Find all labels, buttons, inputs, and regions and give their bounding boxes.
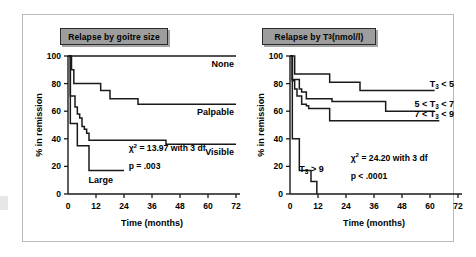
curve-label-t3-lt5: T3 < 5 (430, 79, 454, 90)
chart-goitre-size: 0204060801000122436486072Time (months)% … (22, 14, 250, 242)
y-tick-label: 80 (274, 79, 284, 89)
stat-p-value: p = .003 (129, 161, 161, 171)
curve-5-t3-7 (290, 56, 435, 111)
x-axis-title: Time (months) (121, 218, 183, 228)
x-tick-label: 60 (425, 201, 435, 211)
x-tick-label: 0 (288, 201, 293, 211)
x-tick-label: 36 (147, 201, 157, 211)
curve-large (68, 56, 124, 171)
x-tick-label: 24 (119, 201, 129, 211)
curve-label-palpable: Palpable (197, 107, 234, 117)
curve-label-7-t3-9: 7 < T3 < 9 (414, 109, 454, 120)
y-tick-label: 0 (56, 189, 61, 199)
x-tick-label: 24 (341, 201, 351, 211)
edge-artifact (0, 196, 8, 210)
y-tick-label: 20 (52, 161, 62, 171)
panel-goitre-size: Relapse by goitre size 02040608010001224… (22, 14, 250, 242)
stat-chi-square: χ2 = 13.97 with 3 df (129, 142, 206, 153)
curve-label-visible: Visible (205, 147, 234, 157)
y-tick-label: 80 (52, 79, 62, 89)
y-axis-title: % in remission (256, 93, 266, 157)
x-tick-label: 48 (175, 201, 185, 211)
y-tick-label: 40 (274, 134, 284, 144)
x-tick-label: 0 (66, 201, 71, 211)
curve-label-large: Large (88, 175, 113, 185)
stat-p-value: p < .0001 (351, 171, 388, 181)
y-tick-label: 40 (52, 134, 62, 144)
y-tick-label: 100 (269, 51, 283, 61)
x-axis-title: Time (months) (343, 218, 405, 228)
curve-t3-5 (290, 56, 435, 91)
x-tick-label: 12 (313, 201, 323, 211)
x-tick-label: 72 (453, 201, 463, 211)
y-tick-label: 20 (274, 161, 284, 171)
y-tick-label: 0 (278, 189, 283, 199)
x-tick-label: 60 (203, 201, 213, 211)
x-tick-label: 72 (231, 201, 241, 211)
curve-label-none: None (212, 59, 235, 69)
curve-label-t3-gt9: T3 > 9 (299, 164, 323, 175)
x-tick-label: 48 (397, 201, 407, 211)
chart-t3: 0204060801000122436486072Time (months)% … (244, 14, 472, 242)
x-tick-label: 36 (369, 201, 379, 211)
curve-visible (68, 56, 236, 144)
y-tick-label: 60 (274, 106, 284, 116)
stat-chi-square: χ2 = 24.20 with 3 df (351, 151, 428, 162)
y-axis-title: % in remission (34, 93, 44, 157)
y-tick-label: 100 (47, 51, 61, 61)
y-tick-label: 60 (52, 106, 62, 116)
panel-t3: Relapse by T3 (nmol/l) 02040608010001224… (244, 14, 472, 242)
figure-root: Relapse by goitre size 02040608010001224… (0, 0, 476, 257)
x-tick-label: 12 (91, 201, 101, 211)
